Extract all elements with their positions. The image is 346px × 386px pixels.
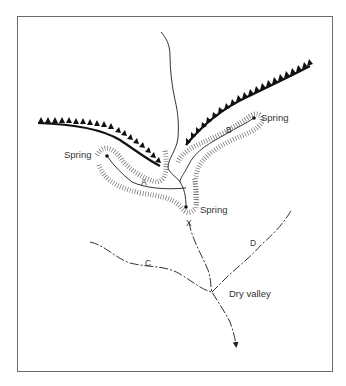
label-stream-a: A [141, 177, 147, 187]
label-stream-b: B [226, 125, 232, 135]
stream-to-spring [180, 182, 186, 207]
label-spring-left: Spring [64, 149, 91, 160]
left-escarpment [38, 117, 161, 166]
spring-center-dot [184, 205, 188, 209]
hachures-b [178, 114, 262, 206]
right-escarpment [186, 59, 313, 145]
label-stream-d: D [250, 238, 256, 248]
spring-right-dot [252, 116, 256, 120]
dry-valley-d [212, 211, 291, 292]
spring-left-dot [105, 154, 109, 158]
label-point-x: X [186, 218, 192, 228]
drainage-diagram: Spring Spring Spring A B C D X Dry valle… [0, 0, 346, 386]
label-spring-center: Spring [200, 204, 227, 215]
label-dry-valley: Dry valley [229, 288, 271, 299]
label-stream-c: C [145, 258, 151, 268]
label-spring-right: Spring [261, 112, 288, 123]
dry-valley-main [189, 222, 236, 345]
